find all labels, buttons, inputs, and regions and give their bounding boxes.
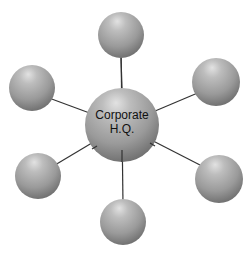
- hub-and-spoke-diagram: [0, 0, 251, 260]
- satellite-node-lower-left: [15, 153, 61, 199]
- satellite-node-upper-right: [192, 58, 240, 106]
- satellite-node-top: [98, 12, 144, 58]
- satellite-node-bottom: [100, 199, 146, 245]
- satellite-node-upper-left: [9, 65, 55, 111]
- satellite-node-lower-right: [195, 155, 243, 203]
